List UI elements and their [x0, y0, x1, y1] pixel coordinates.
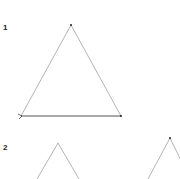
- right-side: [71, 25, 121, 116]
- apex-point: [70, 24, 72, 26]
- right-side: [170, 138, 180, 179]
- diagram-canvas: [0, 0, 180, 179]
- apex-point: [169, 137, 171, 139]
- left-side: [37, 143, 58, 179]
- left-side: [21, 25, 71, 116]
- triangle-figure-2a: [37, 143, 79, 179]
- left-side: [148, 138, 170, 179]
- triangle-figure-1: [18, 24, 122, 119]
- right-side: [58, 143, 79, 179]
- triangle-figure-2b: [148, 137, 180, 179]
- right-point: [120, 115, 122, 117]
